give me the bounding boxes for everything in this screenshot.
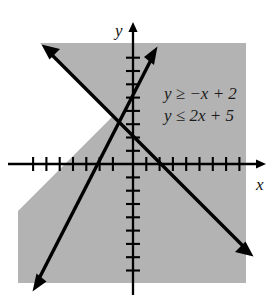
inequality-label-1: y ≥ −x + 2 — [162, 84, 237, 103]
inequality-label-2: y ≤ 2x + 5 — [162, 106, 234, 125]
y-axis-label: y — [113, 21, 123, 40]
x-axis-label: x — [255, 175, 264, 194]
graph-figure: y ≥ −x + 2 y ≤ 2x + 5 y x — [0, 0, 275, 303]
y-axis-arrow — [128, 22, 137, 32]
coordinate-plane: y ≥ −x + 2 y ≤ 2x + 5 y x — [0, 0, 275, 303]
x-axis-arrow — [256, 160, 266, 169]
